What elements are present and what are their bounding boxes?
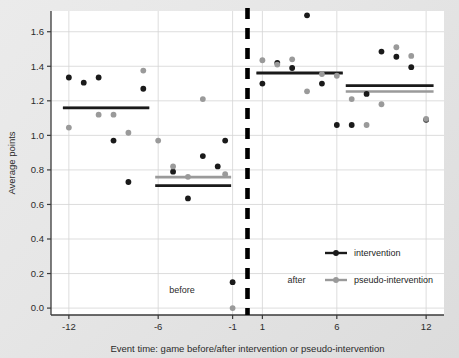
legend-marker [333,250,339,256]
data-point [319,81,325,87]
scatter-chart: 0.00.20.40.60.81.01.21.41.6-12-6-11612 b… [0,0,459,358]
data-point [81,80,87,86]
data-point [304,12,310,18]
x-tick-label: -6 [154,321,162,332]
y-tick-label: 0.0 [31,302,44,313]
data-point [185,174,191,180]
data-point [185,196,191,202]
y-tick-label: 1.6 [31,26,44,37]
data-point [408,53,414,59]
data-point [215,164,221,170]
data-point [140,86,146,92]
data-point [423,116,429,122]
chart-figure: 0.00.20.40.60.81.01.21.41.6-12-6-11612 b… [0,0,459,358]
data-point [155,138,161,144]
data-point [274,62,280,68]
data-point [408,64,414,70]
y-tick-label: 1.0 [31,130,44,141]
annotation-label: before [169,285,195,295]
data-point [289,56,295,62]
y-tick-label: 1.4 [31,61,44,72]
x-tick-label: -1 [228,321,236,332]
data-point [170,164,176,170]
data-point [304,88,310,94]
data-point [222,171,228,177]
y-tick-label: 0.8 [31,164,44,175]
x-tick-label: 6 [334,321,339,332]
legend-label: pseudo-intervention [354,275,433,285]
data-point [334,122,340,128]
data-point [259,81,265,87]
data-point [393,44,399,50]
legend-label: intervention [354,248,401,258]
data-point [222,138,228,144]
annotation-label: after [288,275,306,285]
data-point [393,54,399,60]
data-point [200,153,206,159]
data-point [96,75,102,81]
data-point [349,96,355,102]
data-point [230,279,236,285]
data-point [379,49,385,55]
y-tick-label: 0.2 [31,268,44,279]
legend-marker [333,277,339,283]
data-point [349,122,355,128]
data-point [289,65,295,71]
data-point [66,75,72,81]
data-point [364,122,370,128]
data-point [259,57,265,63]
y-axis-title: Average points [6,131,17,194]
data-point [379,101,385,107]
data-point [319,71,325,77]
x-tick-label: 1 [260,321,265,332]
data-point [66,125,72,131]
x-tick-label: 12 [421,321,432,332]
data-point [111,138,117,144]
data-point [140,68,146,74]
data-point [96,112,102,118]
x-tick-label: -12 [62,321,76,332]
data-point [200,96,206,102]
y-tick-label: 1.2 [31,95,44,106]
data-point [111,112,117,118]
data-point [364,91,370,97]
data-point [126,130,132,136]
x-axis-title: Event time: game before/after interventi… [110,343,384,354]
data-point [170,169,176,175]
data-point [230,305,236,311]
data-point [126,179,132,185]
y-tick-label: 0.4 [31,233,44,244]
data-point [334,73,340,79]
y-tick-label: 0.6 [31,199,44,210]
